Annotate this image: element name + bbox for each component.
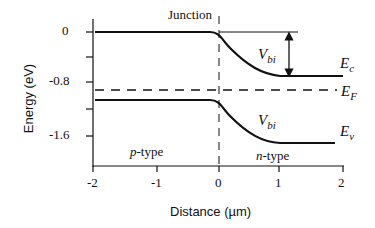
x-tick-0: 0 [215, 176, 222, 189]
ec-label: Ec [340, 56, 354, 74]
conduction-band [95, 32, 343, 76]
x-tick-2: 2 [338, 176, 345, 189]
y-tick-0-8: -0.8 [49, 74, 70, 87]
y-axis [86, 19, 93, 167]
vbi-upper-label: Vbi [258, 47, 276, 65]
x-axis-label: Distance (µm) [170, 205, 251, 218]
n-type-label: n-type [256, 149, 289, 162]
y-axis-label: Energy (eV) [22, 59, 35, 139]
ef-label: EF [341, 84, 357, 102]
x-tick-1: 1 [275, 176, 282, 189]
x-tick-neg1: -1 [151, 176, 162, 189]
vbi-lower-label: Vbi [258, 113, 276, 131]
y-tick-0: 0 [62, 24, 69, 37]
x-tick-neg2: -2 [87, 176, 98, 189]
junction-label: Junction [168, 8, 212, 21]
x-axis [93, 166, 344, 172]
ev-label: Ev [340, 124, 354, 142]
valence-band [95, 100, 335, 143]
y-tick-1-6: -1.6 [49, 128, 70, 141]
band-diagram [0, 0, 375, 228]
p-type-label: p-type [130, 145, 163, 158]
